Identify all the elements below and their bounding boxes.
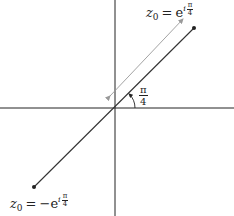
- diagram-canvas: [0, 0, 234, 216]
- label-z0-positive: z0=eiπ4: [146, 4, 193, 23]
- label-z0-negative: z0=−eiπ4: [10, 195, 68, 214]
- point-z0-positive: [192, 26, 196, 30]
- point-z0-negative: [32, 185, 36, 189]
- angle-label: π 4: [139, 84, 148, 107]
- label-var: z: [146, 5, 153, 20]
- angle-arc: [129, 94, 135, 108]
- angle-numerator: π: [139, 84, 148, 96]
- angle-denominator: 4: [140, 96, 146, 107]
